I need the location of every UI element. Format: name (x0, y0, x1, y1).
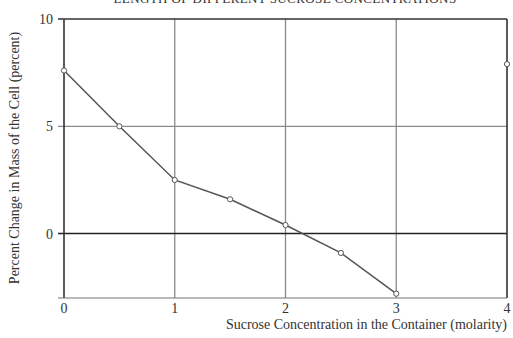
data-point-marker (504, 61, 509, 66)
x-tick-label: 2 (282, 301, 289, 316)
y-axis-label: Percent Change in Mass of the Cell (perc… (7, 32, 23, 284)
data-point-marker (61, 68, 66, 73)
x-tick-label: 3 (393, 301, 400, 316)
data-point-marker (338, 250, 343, 255)
x-tick-label: 4 (504, 301, 511, 316)
x-tick-label: 0 (61, 301, 68, 316)
line-chart: 012340510 (0, 0, 513, 338)
data-point-marker (228, 197, 233, 202)
data-point-marker (117, 124, 122, 129)
y-tick-label: 5 (46, 119, 53, 134)
x-tick-label: 1 (171, 301, 178, 316)
y-tick-label: 0 (46, 227, 53, 242)
data-point-marker (172, 177, 177, 182)
y-tick-label: 10 (39, 12, 53, 27)
data-point-marker (394, 291, 399, 296)
x-axis-label: Sucrose Concentration in the Container (… (226, 317, 507, 333)
data-line (64, 71, 396, 294)
data-point-marker (283, 222, 288, 227)
